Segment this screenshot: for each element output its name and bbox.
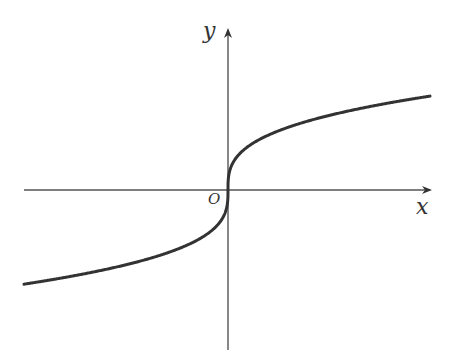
y-axis-label: y bbox=[203, 18, 215, 43]
graph-figure: y x O bbox=[0, 0, 450, 363]
x-axis-label: x bbox=[416, 194, 428, 219]
origin-label: O bbox=[208, 190, 220, 208]
graph-canvas bbox=[0, 0, 450, 363]
